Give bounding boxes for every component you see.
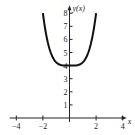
x-tick-label: 2 [94, 122, 98, 131]
y-tick-label: 6 [64, 35, 68, 44]
y-tick-label: 3 [64, 75, 68, 84]
x-tick-label: −4 [12, 122, 21, 131]
x-axis-label: x [127, 117, 132, 126]
y-tick-label: 7 [64, 22, 68, 31]
x-tick-label: −2 [39, 122, 48, 131]
y-tick-label: 2 [64, 88, 68, 97]
y-axis-label: y(x) [72, 4, 86, 13]
y-tick-label: 1 [64, 101, 68, 110]
function-plot: −4−22412345678 x y(x) [0, 0, 135, 135]
x-tick-label: 4 [121, 122, 125, 131]
y-tick-label: 5 [64, 49, 68, 58]
y-tick-label: 8 [64, 9, 68, 18]
y-axis-arrowhead [68, 5, 72, 10]
